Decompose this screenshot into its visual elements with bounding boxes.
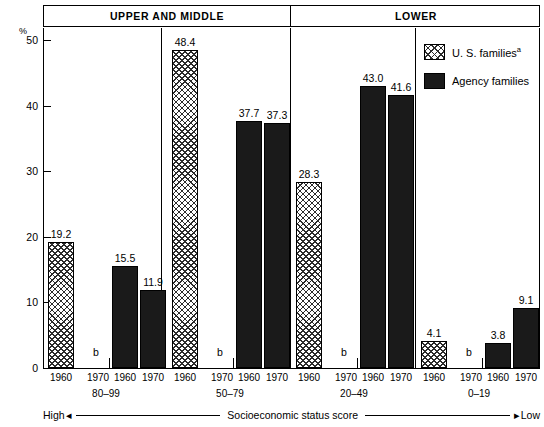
x-tick-label-year: 1960	[114, 372, 136, 383]
missing-data-tick	[357, 358, 358, 368]
x-tick-label-year: 1970	[335, 372, 357, 383]
socioeconomic-direction-axis: High ◂ Socioeconomic status score ▸ Low	[43, 406, 540, 424]
missing-data-tick	[109, 358, 110, 368]
x-tick-label-year: 1970	[87, 372, 109, 383]
legend-swatch-hatched-icon	[424, 44, 445, 60]
missing-data-marker: b	[217, 346, 223, 358]
x-tick-label-year: 1960	[298, 372, 320, 383]
legend: U. S. familiesa Agency families	[424, 44, 529, 102]
axis-rule-right	[365, 415, 510, 416]
arrow-right-icon: ▸	[514, 410, 520, 421]
x-tick-label-year: 1970	[211, 372, 233, 383]
bar-value-label: 11.9	[143, 276, 163, 288]
bar-value-label: 43.0	[363, 72, 383, 84]
missing-data-tick	[233, 358, 234, 368]
y-tick-label-40: 40	[18, 100, 38, 112]
axis-rule-left	[76, 415, 221, 416]
bar-value-label: 3.8	[491, 329, 506, 341]
header-section-upper-middle: UPPER AND MIDDLE	[44, 6, 290, 26]
x-tick-label-year: 1970	[142, 372, 164, 383]
x-tick-label-year: 1960	[487, 372, 509, 383]
y-tick-label-50: 50	[18, 34, 38, 46]
x-tick-label-year: 1960	[423, 372, 445, 383]
bar	[48, 242, 74, 368]
chart-container: % UPPER AND MIDDLE LOWER 50 40 30 20 10 …	[0, 0, 544, 427]
legend-label-us-families: U. S. familiesa	[452, 45, 521, 59]
bar-value-label: 37.3	[267, 109, 287, 121]
missing-data-marker: b	[466, 346, 472, 358]
bar	[360, 86, 386, 368]
bar-value-label: 9.1	[519, 294, 534, 306]
y-tick-mark-30	[44, 171, 51, 172]
bar	[112, 266, 138, 368]
y-tick-label-10: 10	[18, 296, 38, 308]
y-tick-mark-40	[44, 106, 51, 107]
x-tick-label-year: 1960	[174, 372, 196, 383]
header-section-label: LOWER	[395, 10, 437, 22]
bar-value-label: 4.1	[427, 327, 442, 339]
footnote-marker-a: a	[517, 45, 521, 54]
x-tick-label-year: 1960	[50, 372, 72, 383]
x-tick-label-year: 1970	[460, 372, 482, 383]
bar	[296, 182, 322, 368]
arrow-left-icon: ◂	[66, 410, 72, 421]
x-tick-label-year: 1970	[515, 372, 537, 383]
missing-data-marker: b	[93, 346, 99, 358]
missing-data-tick	[482, 358, 483, 368]
bar	[513, 308, 539, 368]
y-tick-label-20: 20	[18, 231, 38, 243]
direction-label-low: Low	[521, 409, 540, 421]
header-section-label: UPPER AND MIDDLE	[110, 10, 224, 22]
x-tick-label-year: 1970	[390, 372, 412, 383]
group-divider-2	[290, 28, 291, 369]
x-axis-title: Socioeconomic status score	[223, 409, 362, 421]
legend-swatch-solid-icon	[424, 73, 445, 89]
bar-value-label: 48.4	[175, 36, 195, 48]
group-range-label: 50–79	[216, 388, 244, 399]
bar	[485, 343, 511, 368]
legend-item-us-families: U. S. familiesa	[424, 44, 529, 60]
bar-value-label: 15.5	[115, 252, 135, 264]
bar	[421, 341, 447, 368]
bar-value-label: 28.3	[299, 168, 319, 180]
header-band: UPPER AND MIDDLE LOWER	[43, 5, 540, 27]
x-tick-label-year: 1960	[362, 372, 384, 383]
y-tick-label-0: 0	[18, 362, 38, 374]
legend-label-agency-families: Agency families	[452, 75, 529, 87]
group-range-label: 20–49	[340, 388, 368, 399]
group-divider-3	[415, 28, 416, 369]
group-range-label: 0–19	[468, 388, 490, 399]
bar	[172, 50, 198, 368]
direction-label-high: High	[43, 409, 65, 421]
y-tick-mark-50	[44, 40, 51, 41]
bar-value-label: 37.7	[239, 107, 259, 119]
bar-value-label: 19.2	[51, 228, 71, 240]
missing-data-marker: b	[341, 346, 347, 358]
y-tick-label-30: 30	[18, 165, 38, 177]
bar-value-label: 41.6	[391, 81, 411, 93]
bar	[388, 95, 414, 368]
x-tick-label-year: 1960	[238, 372, 260, 383]
bar	[140, 290, 166, 368]
group-range-label: 80–99	[92, 388, 120, 399]
legend-item-agency-families: Agency families	[424, 73, 529, 89]
bar	[264, 123, 290, 368]
x-tick-label-year: 1970	[266, 372, 288, 383]
bar	[236, 121, 262, 368]
header-section-lower: LOWER	[290, 6, 541, 26]
